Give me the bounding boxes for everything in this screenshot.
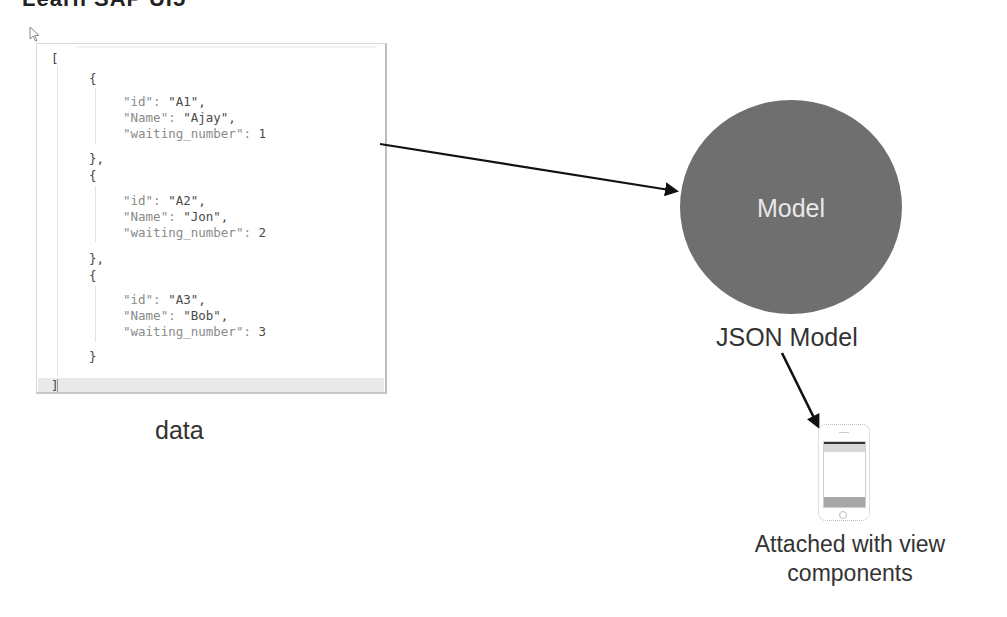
json-value: "Bob", [183,308,228,323]
json-key: "Name" [123,110,168,125]
current-line-highlight [38,378,384,392]
phone-footer-bar [824,497,865,507]
json-key: "waiting_number" [123,324,243,339]
json-separator: : [243,225,258,240]
code-line: "id": "A3", [123,292,206,308]
code-line: "id": "A2", [123,193,206,209]
code-line: "id": "A1", [123,94,206,110]
code-line: "Name": "Jon", [123,209,228,225]
json-separator: : [168,110,183,125]
top-fade [77,46,377,48]
code-line: { [89,168,97,184]
code-line: } [89,349,97,365]
code-line: ] [51,378,59,394]
code-line: "waiting_number": 1 [123,126,266,142]
json-value: 2 [258,225,266,240]
json-separator: : [168,209,183,224]
code-line: [ [51,51,59,67]
json-value: "Jon", [183,209,228,224]
code-line: "Name": "Bob", [123,308,228,324]
code-line: "waiting_number": 3 [123,324,266,340]
model-label: Model [757,194,825,223]
json-value: 1 [258,126,266,141]
json-key: "Name" [123,308,168,323]
phone-header-bar [824,444,865,452]
indent-guide [57,66,58,376]
code-line: }, [89,251,104,267]
attached-label-line2: components [720,559,980,588]
json-key: "id" [123,94,153,109]
arrow-data-to-model [380,144,676,191]
json-value: "A2", [168,193,206,208]
phone-screen [823,441,866,508]
indent-guide [95,186,96,242]
json-key: "id" [123,292,153,307]
json-key: "id" [123,193,153,208]
data-label: data [155,416,204,445]
json-separator: : [243,126,258,141]
page-title: Learn SAP UI5 [22,0,186,12]
json-value: "A1", [168,94,206,109]
attached-view-label: Attached with view components [720,530,980,588]
json-value: "Ajay", [183,110,236,125]
phone-speaker [839,432,849,433]
code-line: { [89,71,97,87]
code-line: }, [89,151,104,167]
code-line: { [89,268,97,284]
model-circle: Model [680,100,902,314]
json-model-label: JSON Model [716,323,858,352]
code-line: "Name": "Ajay", [123,110,236,126]
code-line: "waiting_number": 2 [123,225,266,241]
json-value: "A3", [168,292,206,307]
json-key: "waiting_number" [123,126,243,141]
indent-guide [95,286,96,342]
json-key: "waiting_number" [123,225,243,240]
json-separator: : [153,193,168,208]
json-data-panel: [{"id": "A1","Name": "Ajay","waiting_num… [36,43,387,394]
json-separator: : [243,324,258,339]
json-value: 3 [258,324,266,339]
arrow-model-to-view [782,353,818,426]
json-key: "Name" [123,209,168,224]
phone-home-button [839,511,847,519]
json-separator: : [153,94,168,109]
indent-guide [95,88,96,144]
attached-label-line1: Attached with view [720,530,980,559]
json-separator: : [153,292,168,307]
mobile-phone-icon [818,424,870,521]
json-separator: : [168,308,183,323]
mouse-cursor-icon [29,26,41,42]
